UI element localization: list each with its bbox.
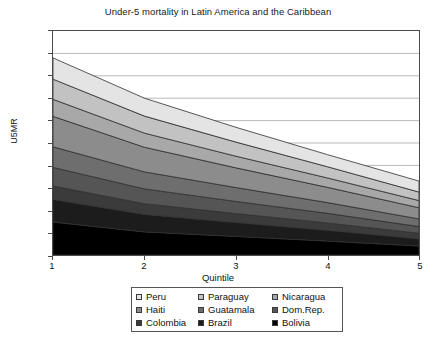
chart-legend: PeruParaguayNicaraguaHaitiGuatamalaDom.R… [131,287,343,332]
legend-item[interactable]: Guatamala [198,305,272,315]
x-tick-label: 4 [316,260,340,271]
legend-item-label: Paraguay [208,292,249,302]
legend-item[interactable]: Paraguay [198,292,272,302]
legend-swatch-paraguay [198,294,204,300]
x-tick-label: 5 [408,260,432,271]
legend-swatch-nicaragua [272,294,278,300]
legend-swatch-peru [136,294,142,300]
legend-swatch-haiti [136,307,142,313]
x-tick-label: 2 [132,260,156,271]
x-tick-label: 1 [40,260,64,271]
legend-item-label: Brazil [208,318,232,328]
x-tick-label: 3 [224,260,248,271]
legend-item[interactable]: Brazil [198,318,272,328]
legend-item[interactable]: Bolivia [272,318,338,328]
y-axis-label: U5MR [9,101,19,161]
legend-swatch-colombia [136,320,142,326]
stacked-area-plot [53,31,419,255]
legend-item[interactable]: Haiti [136,305,198,315]
x-axis-label: Quintile [0,272,436,283]
legend-swatch-bolivia [272,320,278,326]
legend-item-label: Bolivia [282,318,310,328]
legend-item-label: Haiti [146,305,165,315]
chart-figure: Under-5 mortality in Latin America and t… [0,0,436,344]
legend-swatch-brazil [198,320,204,326]
plot-area [52,30,420,256]
legend-item[interactable]: Colombia [136,318,198,328]
legend-item-label: Colombia [146,318,186,328]
legend-item-label: Nicaragua [282,292,325,302]
legend-item[interactable]: Peru [136,292,198,302]
legend-item[interactable]: Nicaragua [272,292,338,302]
legend-swatch-domrep [272,307,278,313]
legend-item-label: Guatamala [208,305,254,315]
legend-item-label: Dom.Rep. [282,305,325,315]
legend-item-label: Peru [146,292,166,302]
legend-swatch-guatamala [198,307,204,313]
legend-grid: PeruParaguayNicaraguaHaitiGuatamalaDom.R… [136,290,338,329]
legend-item[interactable]: Dom.Rep. [272,305,338,315]
chart-title: Under-5 mortality in Latin America and t… [0,6,436,17]
